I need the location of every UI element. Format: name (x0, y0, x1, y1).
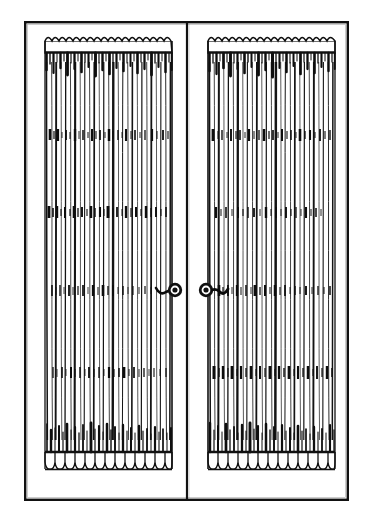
illustration-canvas: Two gathered curtain panels hung side by… (0, 0, 369, 526)
curtain-panels-illustration: Two gathered curtain panels hung side by… (0, 0, 369, 526)
